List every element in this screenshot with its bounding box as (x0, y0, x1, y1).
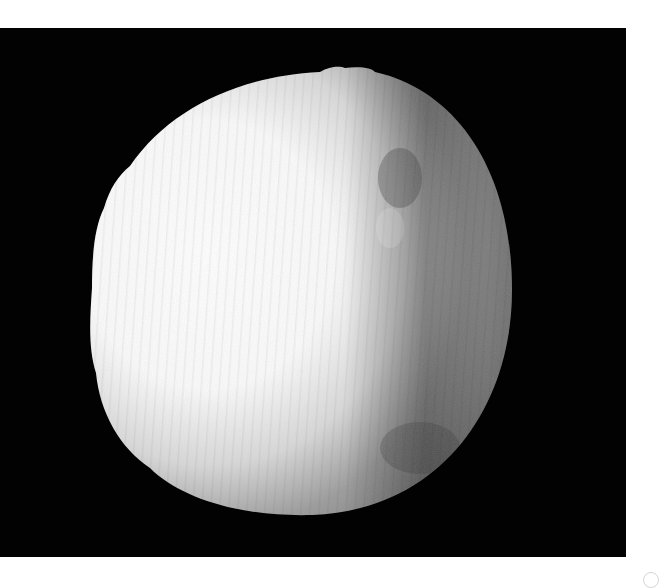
moon-body (0, 28, 626, 557)
photo-panel: Grayscale photograph of a cratered spher… (0, 28, 626, 557)
circle-mark-icon (643, 572, 659, 588)
moon-photo (0, 28, 626, 557)
